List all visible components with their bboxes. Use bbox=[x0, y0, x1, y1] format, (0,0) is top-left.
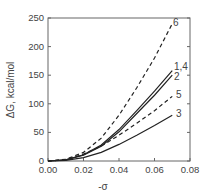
y-axis-label: ΔG, kcal/mol bbox=[5, 62, 16, 119]
svg-text:250: 250 bbox=[28, 12, 44, 23]
series-3 bbox=[48, 115, 172, 161]
svg-text:0: 0 bbox=[39, 155, 44, 166]
series-1-4 bbox=[48, 71, 172, 161]
axes-ticks: 0.000.020.040.060.08050100150200250 bbox=[28, 12, 199, 175]
svg-text:0.08: 0.08 bbox=[181, 164, 200, 175]
plot-frame bbox=[48, 18, 190, 161]
series-5 bbox=[48, 96, 172, 161]
label-5: 5 bbox=[176, 89, 182, 100]
label-3: 3 bbox=[176, 108, 182, 119]
chart: 0.000.020.040.060.08050100150200250 -σ Δ… bbox=[0, 0, 207, 193]
svg-text:200: 200 bbox=[28, 41, 44, 52]
label-6: 6 bbox=[173, 17, 179, 28]
svg-text:0.06: 0.06 bbox=[145, 164, 164, 175]
x-axis-label: -σ bbox=[98, 181, 108, 192]
svg-text:100: 100 bbox=[28, 98, 44, 109]
svg-text:0.02: 0.02 bbox=[74, 164, 93, 175]
svg-text:150: 150 bbox=[28, 69, 44, 80]
svg-text:50: 50 bbox=[33, 126, 44, 137]
label-2: 2 bbox=[174, 71, 180, 82]
series-lines bbox=[48, 24, 172, 161]
svg-text:0.04: 0.04 bbox=[110, 164, 129, 175]
